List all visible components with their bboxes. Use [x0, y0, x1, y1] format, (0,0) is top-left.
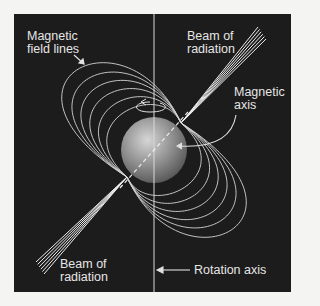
label-beam-of-radiation-top: Beam of radiation: [187, 30, 235, 56]
label-line: axis: [234, 99, 285, 112]
label-magnetic-axis: Magnetic axis: [234, 86, 285, 112]
label-line: radiation: [187, 43, 235, 56]
rotation-axis-pointer-icon: [157, 267, 190, 273]
label-line: field lines: [27, 43, 79, 56]
label-line: radiation: [60, 271, 108, 284]
field-lines-pointer-icon: [74, 55, 84, 64]
label-rotation-axis: Rotation axis: [194, 264, 266, 277]
label-magnetic-field-lines: Magnetic field lines: [27, 30, 79, 56]
label-beam-of-radiation-bottom: Beam of radiation: [60, 258, 108, 284]
